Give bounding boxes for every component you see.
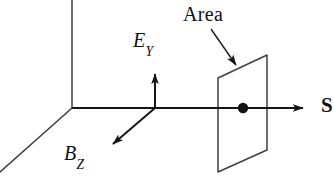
frame-depth-axis (0, 108, 72, 173)
area-leader-arrow (211, 29, 236, 65)
area-parallelogram (218, 55, 267, 172)
e-field-label: EY (133, 30, 153, 55)
center-point-dot (238, 103, 248, 113)
physics-figure: Area EY BZ S (0, 0, 334, 178)
s-axis-label: S (321, 95, 333, 116)
area-plane (218, 55, 267, 172)
b-field-arrow (113, 108, 155, 144)
e-field-subscript: Y (145, 44, 153, 59)
center-point-group (238, 103, 248, 113)
e-field-symbol: E (133, 29, 145, 51)
background-coordinate-frame (0, 0, 72, 173)
b-field-vector-group (113, 108, 155, 144)
b-field-symbol: B (64, 142, 76, 164)
b-field-subscript: Z (76, 157, 84, 172)
figure-canvas (0, 0, 334, 178)
area-leader-group (211, 29, 236, 65)
b-field-label: BZ (64, 143, 84, 168)
area-label: Area (183, 4, 223, 24)
